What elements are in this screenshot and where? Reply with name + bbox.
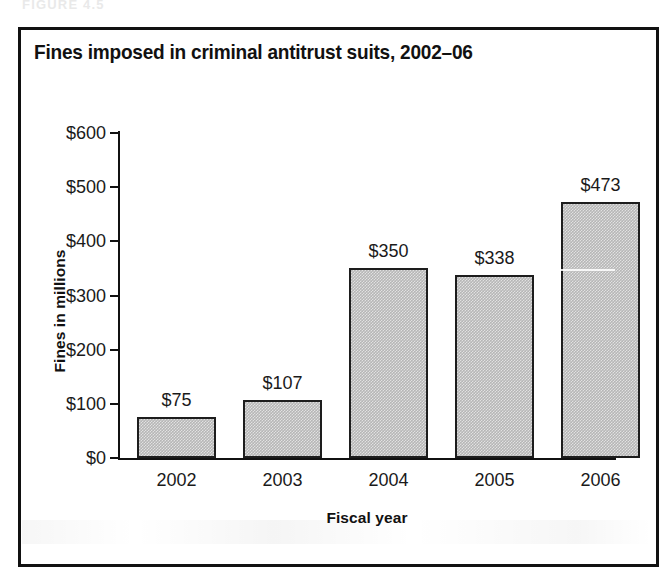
scan-mottle-artifact (22, 520, 652, 544)
figure-caption: FIGURE 4.5 (22, 0, 105, 12)
figure-frame (18, 27, 659, 567)
chart-title: Fines imposed in criminal antitrust suit… (34, 40, 473, 64)
